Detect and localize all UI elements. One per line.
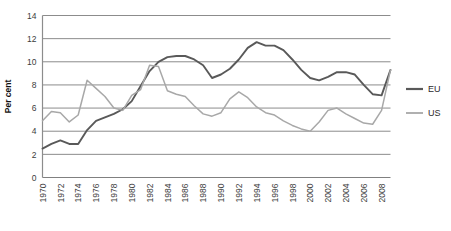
x-tick-label-1976: 1976 xyxy=(91,183,101,202)
unemployment-rate-line-chart: 02468101214Per cent197019721974197619781… xyxy=(0,0,451,231)
x-tick-label-1974: 1974 xyxy=(73,183,83,202)
y-tick-label-10: 10 xyxy=(27,57,37,67)
legend-label-us: US xyxy=(428,108,441,118)
x-axis-labels-group: 1970197219741976197819801982198419861988… xyxy=(38,183,387,202)
y-tick-label-2: 2 xyxy=(32,150,37,160)
x-tick-label-2004: 2004 xyxy=(341,183,351,202)
x-tick-label-1978: 1978 xyxy=(109,183,119,202)
y-tick-label-0: 0 xyxy=(32,173,37,183)
series-line-eu xyxy=(43,42,391,148)
y-axis-title: Per cent xyxy=(3,80,13,114)
y-tick-label-8: 8 xyxy=(32,80,37,90)
x-tick-label-1994: 1994 xyxy=(252,183,262,202)
x-tick-label-2002: 2002 xyxy=(323,183,333,202)
x-tick-label-1988: 1988 xyxy=(198,183,208,202)
y-tick-label-4: 4 xyxy=(32,126,37,136)
x-tick-label-2008: 2008 xyxy=(377,183,387,202)
legend-label-eu: EU xyxy=(428,84,441,94)
y-tick-label-14: 14 xyxy=(27,11,37,21)
data-series-group xyxy=(43,42,391,148)
x-tick-label-1972: 1972 xyxy=(56,183,66,202)
x-tick-label-2006: 2006 xyxy=(359,183,369,202)
x-tick-label-1986: 1986 xyxy=(180,183,190,202)
gridlines-group xyxy=(43,16,391,178)
x-tick-label-1970: 1970 xyxy=(38,183,48,202)
x-tick-label-1982: 1982 xyxy=(145,183,155,202)
y-tick-label-6: 6 xyxy=(32,103,37,113)
x-tick-label-1996: 1996 xyxy=(270,183,280,202)
x-tick-label-1984: 1984 xyxy=(163,183,173,202)
x-tick-label-2000: 2000 xyxy=(305,183,315,202)
x-tick-label-1980: 1980 xyxy=(127,183,137,202)
x-tick-label-1992: 1992 xyxy=(234,183,244,202)
legend: EUUS xyxy=(406,84,441,118)
y-tick-label-12: 12 xyxy=(27,34,37,44)
chart-canvas: 02468101214Per cent197019721974197619781… xyxy=(0,0,451,231)
x-tick-label-1998: 1998 xyxy=(288,183,298,202)
x-tick-label-1990: 1990 xyxy=(216,183,226,202)
